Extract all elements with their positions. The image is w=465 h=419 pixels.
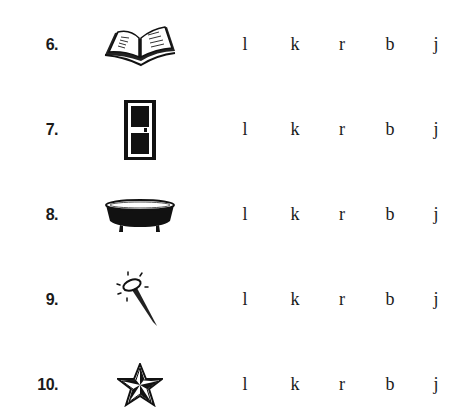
item-row-7: 7. l k r b j (0, 100, 465, 160)
item-row-6: 6. l k r b j (0, 15, 465, 75)
letter-choice-l[interactable]: l (242, 204, 247, 225)
letter-choice-j[interactable]: j (433, 34, 438, 55)
letter-choice-k[interactable]: k (291, 204, 300, 225)
letter-choice-r[interactable]: r (339, 34, 345, 55)
letter-choice-l[interactable]: l (242, 289, 247, 310)
letter-choice-j[interactable]: j (433, 289, 438, 310)
letter-choice-r[interactable]: r (339, 204, 345, 225)
letter-choice-l[interactable]: l (242, 34, 247, 55)
item-row-8: 8. l k r b j (0, 185, 465, 245)
item-row-9: 9. l k r b j (0, 270, 465, 330)
letter-choice-k[interactable]: k (291, 119, 300, 140)
letter-choice-j[interactable]: j (433, 204, 438, 225)
letter-choice-k[interactable]: k (291, 374, 300, 395)
star-icon (100, 355, 180, 415)
nail-icon (100, 270, 180, 330)
door-icon (100, 100, 180, 160)
letter-choice-r[interactable]: r (339, 289, 345, 310)
item-row-10: 10. l k r b j (0, 355, 465, 415)
letter-choice-b[interactable]: b (386, 119, 395, 140)
letter-choice-l[interactable]: l (242, 374, 247, 395)
letter-choice-b[interactable]: b (386, 289, 395, 310)
letter-choice-k[interactable]: k (291, 289, 300, 310)
bathtub-icon (100, 185, 180, 245)
letter-choice-b[interactable]: b (386, 204, 395, 225)
letter-choice-b[interactable]: b (386, 374, 395, 395)
item-number: 9. (26, 291, 58, 309)
letter-choice-j[interactable]: j (433, 119, 438, 140)
letter-choice-l[interactable]: l (242, 119, 247, 140)
item-number: 10. (26, 376, 58, 394)
item-number: 6. (26, 36, 58, 54)
letter-choice-b[interactable]: b (386, 34, 395, 55)
letter-choice-r[interactable]: r (339, 374, 345, 395)
letter-choice-k[interactable]: k (291, 34, 300, 55)
letter-choice-r[interactable]: r (339, 119, 345, 140)
open-book-icon (100, 15, 180, 75)
item-number: 7. (26, 121, 58, 139)
letter-choice-j[interactable]: j (433, 374, 438, 395)
item-number: 8. (26, 206, 58, 224)
